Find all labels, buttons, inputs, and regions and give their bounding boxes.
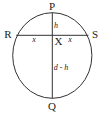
label-segment-rx: x bbox=[31, 35, 36, 44]
label-point-x: X bbox=[55, 35, 63, 47]
label-point-s: S bbox=[92, 28, 98, 40]
circle-diagram: P Q R S X x x h d - h bbox=[0, 0, 105, 115]
label-point-q: Q bbox=[48, 100, 56, 112]
label-point-r: R bbox=[4, 28, 12, 40]
label-segment-xs: x bbox=[67, 35, 72, 44]
label-segment-px: h bbox=[54, 21, 58, 30]
label-segment-xq: d - h bbox=[54, 63, 69, 72]
label-point-p: P bbox=[49, 0, 55, 12]
